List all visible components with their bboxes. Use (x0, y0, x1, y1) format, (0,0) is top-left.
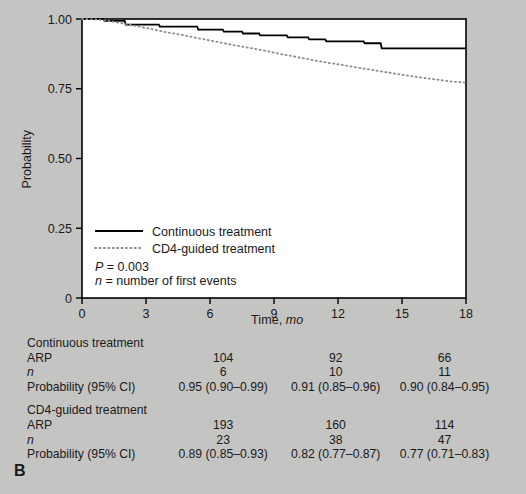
y-tick-label: 1.00 (48, 13, 72, 27)
table-cell: 0.91 (0.85–0.96) (279, 380, 392, 395)
table-row: n61011 (27, 365, 497, 380)
table-cell: 23 (167, 433, 280, 448)
x-tick-label: 15 (395, 307, 409, 321)
y-tick-label: 0.75 (48, 82, 72, 96)
table-cell: 0.89 (0.85–0.93) (167, 447, 280, 462)
table-cell: 0.90 (0.84–0.95) (392, 380, 497, 395)
table-row-label: Probability (95% CI) (27, 447, 167, 462)
table-cell: 104 (167, 351, 280, 366)
y-tick-label: 0 (65, 292, 72, 306)
p-value-annotation: P = 0.003 (95, 260, 149, 274)
panel-label: B (14, 462, 26, 480)
figure-panel-b: 036912151800.250.500.751.00Continuous tr… (0, 0, 526, 494)
plot-background (82, 19, 466, 298)
legend-label-0: Continuous treatment (152, 225, 272, 239)
table-cell: 6 (167, 365, 280, 380)
table-row-label-italic: n (27, 433, 34, 447)
table-cell: 114 (392, 418, 497, 433)
table-group-header-row: Continuous treatment (27, 336, 497, 351)
x-axis-title: Time, mo (251, 313, 303, 327)
table-cell: 160 (279, 418, 392, 433)
table-row-label-italic: n (27, 365, 34, 379)
table-cell: 47 (392, 433, 497, 448)
table-cell: 92 (279, 351, 392, 366)
table-cell: 193 (167, 418, 280, 433)
risk-table: Continuous treatmentARP1049266n61011Prob… (27, 336, 497, 462)
table-row: ARP1049266 (27, 351, 497, 366)
table-spacer-cell (27, 394, 497, 403)
x-tick-label: 12 (331, 307, 345, 321)
x-axis-title-text: Time, (251, 313, 286, 327)
n-definition-annotation-symbol: n (95, 274, 102, 288)
table-row: ARP193160114 (27, 418, 497, 433)
table-group-title: Continuous treatment (27, 336, 497, 351)
table-cell: 10 (279, 365, 392, 380)
y-tick-label: 0.50 (48, 152, 72, 166)
x-tick-label: 6 (207, 307, 214, 321)
table-row-label: Probability (95% CI) (27, 380, 167, 395)
x-axis-title-unit: mo (286, 313, 304, 327)
x-tick-label: 18 (459, 307, 473, 321)
table-cell: 0.95 (0.90–0.99) (167, 380, 280, 395)
table-row-label: ARP (27, 418, 167, 433)
table-cell: 66 (392, 351, 497, 366)
table-spacer-row (27, 394, 497, 403)
table-row-label: ARP (27, 351, 167, 366)
table-row: Probability (95% CI)0.95 (0.90–0.99)0.91… (27, 380, 497, 395)
table-cell: 38 (279, 433, 392, 448)
kaplan-meier-plot: 036912151800.250.500.751.00Continuous tr… (0, 0, 526, 330)
n-definition-annotation-text: = number of first events (102, 274, 236, 288)
table-row: n233847 (27, 433, 497, 448)
table-group-title: CD4-guided treatment (27, 403, 497, 418)
x-tick-label: 0 (79, 307, 86, 321)
x-tick-label: 3 (143, 307, 150, 321)
table-cell: 11 (392, 365, 497, 380)
legend-label-1: CD4-guided treatment (152, 242, 276, 256)
table-cell: 0.82 (0.77–0.87) (279, 447, 392, 462)
table-group-header-row: CD4-guided treatment (27, 403, 497, 418)
y-axis-title: Probability (20, 130, 34, 188)
p-value-annotation-text: = 0.003 (103, 260, 149, 274)
table-row-label: n (27, 365, 167, 380)
y-tick-label: 0.25 (48, 222, 72, 236)
table-cell: 0.77 (0.71–0.83) (392, 447, 497, 462)
n-definition-annotation: n = number of first events (95, 274, 236, 288)
table-row-label: n (27, 433, 167, 448)
table-row: Probability (95% CI)0.89 (0.85–0.93)0.82… (27, 447, 497, 462)
